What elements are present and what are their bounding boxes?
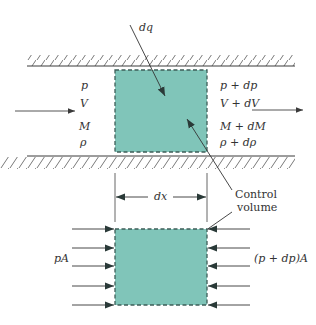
outlet-density-label: ρ + dρ [219, 136, 257, 149]
callout-line-1: Control [235, 188, 277, 201]
callout-line-2: volume [236, 201, 277, 214]
left-force-arrows [72, 229, 114, 305]
control-volume-diagram: dq p V M ρ p + dp V + dV M + dM ρ + dρ C… [0, 0, 316, 325]
inlet-pressure-label: p [81, 79, 88, 92]
outlet-mach-label: M + dM [219, 120, 267, 133]
top-wall [27, 55, 295, 66]
right-force-label: (p + dp)A [254, 252, 308, 265]
right-force-arrows [208, 229, 250, 305]
inlet-density-label: ρ [79, 136, 87, 149]
outlet-velocity-label: V + dV [220, 97, 260, 110]
width-label: dx [154, 190, 168, 203]
heat-label: dq [139, 21, 153, 34]
control-volume-bottom [115, 229, 207, 305]
inlet-mach-label: M [78, 120, 91, 133]
control-volume-top [115, 70, 207, 152]
left-force-label: pA [54, 252, 69, 265]
outlet-pressure-label: p + dp [220, 79, 257, 92]
bottom-wall [0, 156, 295, 169]
inlet-velocity-label: V [80, 97, 89, 110]
